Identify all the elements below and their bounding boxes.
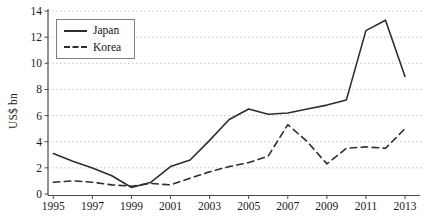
series-line-korea [53,125,405,187]
y-tick-label: 6 [36,110,42,122]
solid-line-sample-icon [64,30,87,32]
x-tick-label: 1997 [81,200,104,212]
y-tick-label: 10 [31,57,43,69]
y-tick-label: 14 [31,5,43,17]
y-tick-label: 12 [31,31,43,43]
dashed-line-sample-icon [64,46,87,48]
y-tick-label: 0 [36,188,42,200]
x-tick-label: 2001 [159,200,182,212]
y-tick-label: 8 [36,83,42,95]
legend-label-korea: Korea [93,42,121,54]
y-tick-label: 4 [36,136,42,148]
y-axis-title: US$ bn [7,59,19,163]
x-tick-label: 2003 [198,200,221,212]
x-tick-label: 2007 [276,200,299,212]
legend: Japan Korea [56,19,135,59]
x-tick-label: 2009 [315,200,338,212]
legend-item-korea: Korea [64,42,134,54]
x-tick-label: 2005 [237,200,260,212]
x-tick-label: 2013 [394,200,417,212]
x-tick-label: 1995 [42,200,65,212]
legend-label-japan: Japan [93,25,119,37]
line-chart-figure: 0246810121419951997199920012003200520072… [0,0,439,220]
y-tick-label: 2 [36,162,42,174]
x-tick-label: 2011 [355,200,378,212]
x-tick-label: 1999 [120,200,143,212]
legend-item-japan: Japan [64,25,134,37]
